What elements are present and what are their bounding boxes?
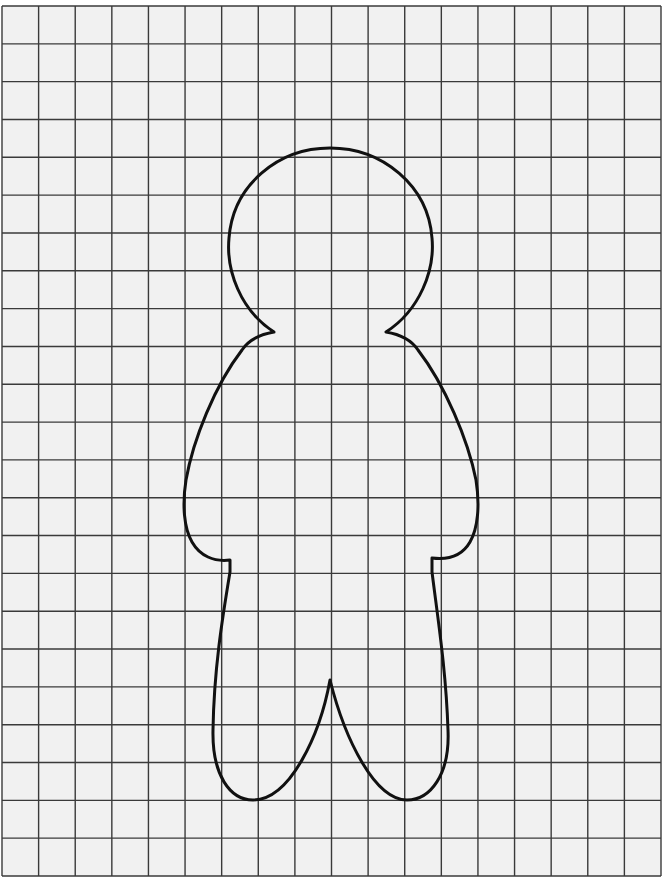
- worksheet-page: [0, 0, 668, 879]
- grid-sheet: [0, 0, 668, 879]
